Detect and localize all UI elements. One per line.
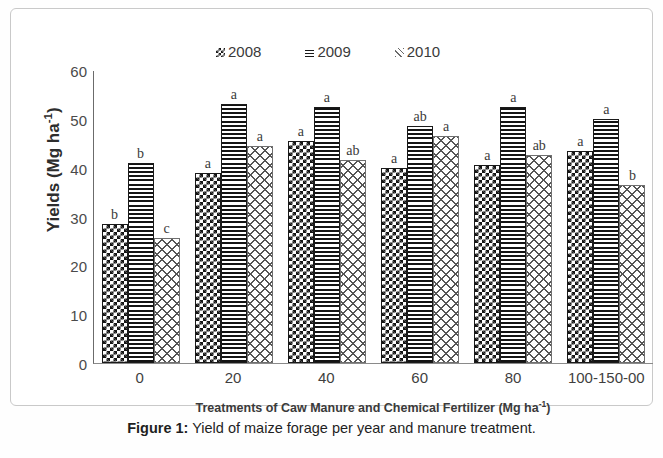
bar-wrap: a [221, 71, 247, 363]
figure-page: 2008 2009 2010 Yields (Mg ha-1) 01020304… [0, 0, 663, 458]
legend-item-2010: 2010 [395, 43, 440, 60]
bar-wrap: a [433, 71, 459, 363]
legend-swatch-2010-icon [395, 48, 404, 57]
plot-area: bbcaaaaaabaabaaaabaab [93, 71, 653, 364]
significance-letter: b [137, 146, 144, 162]
bar-group: aaab [467, 71, 560, 363]
x-tick-label: 60 [373, 369, 466, 391]
bar-groups: bbcaaaaaabaabaaaabaab [94, 71, 653, 363]
bar-2009-100-150-00: a [593, 119, 619, 363]
significance-letter: c [163, 221, 169, 237]
significance-letter: a [603, 102, 609, 118]
significance-letter: ab [533, 138, 546, 154]
bar-2008-40: a [288, 141, 314, 363]
bar-wrap: ab [340, 71, 366, 363]
bar-2010-80: ab [526, 155, 552, 363]
bar-wrap: a [314, 71, 340, 363]
significance-letter: a [577, 134, 583, 150]
bar-wrap: a [288, 71, 314, 363]
bar-2009-0: b [128, 163, 154, 363]
bar-2009-40: a [314, 107, 340, 363]
legend-item-2008: 2008 [216, 43, 261, 60]
bar-2008-80: a [474, 165, 500, 363]
significance-letter: a [205, 156, 211, 172]
figure-caption-label: Figure 1: [127, 420, 188, 436]
bar-2009-20: a [221, 104, 247, 363]
bar-2008-60: a [381, 168, 407, 363]
bar-2009-60: ab [407, 126, 433, 363]
x-axis-title-text: Treatments of Caw Manure and Chemical Fe… [196, 401, 539, 415]
legend-swatch-2009-icon [305, 48, 314, 57]
figure-caption: Figure 1: Yield of maize forage per year… [0, 420, 663, 436]
bar-2008-100-150-00: a [567, 151, 593, 363]
bar-2010-0: c [154, 238, 180, 363]
bar-group: bbc [94, 71, 187, 363]
significance-letter: a [391, 151, 397, 167]
bar-wrap: a [195, 71, 221, 363]
significance-letter: a [324, 90, 330, 106]
bar-2008-0: b [102, 224, 128, 363]
figure-frame: 2008 2009 2010 Yields (Mg ha-1) 01020304… [10, 8, 653, 406]
bar-2010-100-150-00: b [619, 185, 645, 363]
bar-wrap: a [381, 71, 407, 363]
x-tick-label: 40 [280, 369, 373, 391]
bar-wrap: a [500, 71, 526, 363]
x-axis-ticks: 020406080100-150-00 [93, 369, 653, 391]
bar-group: aab [560, 71, 653, 363]
bar-2010-20: a [247, 146, 273, 363]
bar-wrap: a [474, 71, 500, 363]
bar-group: aaab [280, 71, 373, 363]
y-tick-label: 60 [70, 63, 87, 80]
y-tick-label: 50 [70, 111, 87, 128]
bar-2009-80: a [500, 107, 526, 363]
y-axis-ticks: 0102030405060 [51, 71, 87, 364]
significance-letter: a [510, 90, 516, 106]
x-axis-title-close: ) [546, 401, 550, 415]
bar-2008-20: a [195, 173, 221, 363]
significance-letter: b [111, 207, 118, 223]
y-tick-label: 40 [70, 160, 87, 177]
x-axis-title: Treatments of Caw Manure and Chemical Fe… [93, 399, 653, 415]
y-tick-label: 10 [70, 307, 87, 324]
significance-letter: a [257, 129, 263, 145]
legend-item-2009: 2009 [305, 43, 350, 60]
bar-2010-40: ab [340, 160, 366, 363]
bar-group: aaa [187, 71, 280, 363]
significance-letter: a [484, 148, 490, 164]
legend-label-2009: 2009 [317, 43, 350, 60]
x-tick-label: 100-150-00 [560, 369, 653, 391]
significance-letter: ab [413, 109, 426, 125]
chart-legend: 2008 2009 2010 [216, 43, 440, 60]
bar-wrap: ab [407, 71, 433, 363]
significance-letter: a [231, 87, 237, 103]
y-tick-label: 0 [79, 356, 87, 373]
x-tick-label: 20 [186, 369, 279, 391]
significance-letter: a [298, 124, 304, 140]
significance-letter: ab [346, 143, 359, 159]
significance-letter: a [443, 119, 449, 135]
bar-wrap: a [247, 71, 273, 363]
bar-group: aaba [374, 71, 467, 363]
x-tick-label: 80 [466, 369, 559, 391]
figure-caption-text: Yield of maize forage per year and manur… [188, 420, 535, 436]
y-tick-label: 20 [70, 258, 87, 275]
bar-wrap: b [128, 71, 154, 363]
bar-wrap: a [593, 71, 619, 363]
legend-swatch-2008-icon [216, 48, 225, 57]
y-tick-label: 30 [70, 209, 87, 226]
bar-wrap: ab [526, 71, 552, 363]
bar-2010-60: a [433, 136, 459, 363]
bar-wrap: a [567, 71, 593, 363]
legend-label-2010: 2010 [407, 43, 440, 60]
bar-wrap: b [102, 71, 128, 363]
x-tick-label: 0 [93, 369, 186, 391]
bar-wrap: c [154, 71, 180, 363]
significance-letter: b [629, 168, 636, 184]
legend-label-2008: 2008 [228, 43, 261, 60]
bar-wrap: b [619, 71, 645, 363]
